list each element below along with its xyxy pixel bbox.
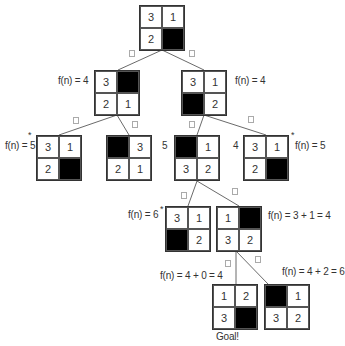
blank-tile — [162, 28, 184, 50]
blank-tile — [107, 136, 129, 158]
tile: 1 — [266, 136, 288, 158]
tile: 1 — [213, 285, 235, 307]
f-value-label: 4 — [233, 140, 238, 151]
f-value-label: f(n) = 5 — [5, 140, 35, 151]
missing-glyph-icon — [248, 116, 254, 123]
tile: 3 — [129, 136, 151, 158]
tile: 3 — [95, 71, 117, 93]
puzzle-board-l2c: 1 3 2 — [174, 135, 220, 181]
tile: 2 — [107, 158, 129, 180]
tile: 3 — [182, 71, 204, 93]
blank-tile — [235, 307, 257, 329]
tile: 1 — [197, 136, 219, 158]
f-value-label: 5 — [162, 140, 167, 151]
tile: 3 — [244, 136, 266, 158]
goal-label: Goal! — [216, 331, 239, 342]
f-value-label: f(n) = 3 + 1 = 4 — [268, 210, 331, 221]
blank-tile — [117, 71, 139, 93]
tile: 3 — [140, 6, 162, 28]
puzzle-board-l1b: 3 1 2 — [181, 70, 227, 116]
puzzle-board-l2d: 3 1 2 — [243, 135, 289, 181]
star-marker: * — [160, 204, 164, 214]
edge-l1b-l2d — [204, 115, 266, 135]
edge-root-l1b — [162, 50, 204, 70]
tile: 1 — [287, 285, 309, 307]
blank-tile — [59, 158, 81, 180]
missing-glyph-icon — [189, 50, 195, 57]
blank-tile — [175, 136, 197, 158]
blank-tile — [265, 285, 287, 307]
edge-l1b-l2c — [197, 115, 204, 135]
f-value-label: f(n) = 4 + 0 = 4 — [160, 270, 223, 281]
edge-root-l1a — [118, 50, 162, 70]
missing-glyph-icon — [189, 121, 195, 128]
edge-l1a-l2a — [59, 115, 117, 135]
tile: 1 — [117, 93, 139, 115]
puzzle-board-l1a: 3 2 1 — [94, 70, 140, 116]
puzzle-board-l4b: 1 3 2 — [264, 284, 310, 330]
tile: 1 — [129, 158, 151, 180]
f-value-label: f(n) = 4 + 2 = 6 — [282, 266, 345, 277]
edge-l1a-l2b — [117, 115, 129, 135]
puzzle-board-l3a: 3 1 2 — [165, 206, 211, 252]
tile: 3 — [217, 229, 239, 251]
missing-glyph-icon — [129, 50, 135, 57]
f-value-label: f(n) = 6 — [128, 209, 158, 220]
tile: 2 — [188, 229, 210, 251]
tile: 2 — [235, 285, 257, 307]
tile: 2 — [197, 158, 219, 180]
blank-tile — [239, 207, 261, 229]
puzzle-board-goal: 1 2 3 — [212, 284, 258, 330]
tile: 2 — [95, 93, 117, 115]
edge-l2c-l3a — [188, 181, 197, 206]
blank-tile — [266, 158, 288, 180]
missing-glyph-icon — [255, 256, 261, 263]
tile: 1 — [204, 71, 226, 93]
puzzle-board-root: 3 1 2 — [139, 5, 185, 51]
tile: 3 — [166, 207, 188, 229]
tile: 3 — [175, 158, 197, 180]
puzzle-board-l3b: 1 3 2 — [216, 206, 262, 252]
blank-tile — [166, 229, 188, 251]
tile: 2 — [287, 307, 309, 329]
tile: 2 — [239, 229, 261, 251]
blank-tile — [182, 93, 204, 115]
f-value-label: f(n) = 5 — [295, 140, 325, 151]
missing-glyph-icon — [132, 121, 138, 128]
tile: 1 — [59, 136, 81, 158]
star-marker: * — [28, 130, 32, 140]
tile: 1 — [188, 207, 210, 229]
f-value-label: f(n) = 4 — [235, 75, 265, 86]
missing-glyph-icon — [225, 260, 231, 267]
tile: 2 — [204, 93, 226, 115]
star-marker: * — [291, 130, 295, 140]
edge-l3b-l4b — [236, 251, 268, 284]
tile: 2 — [140, 28, 162, 50]
tile: 2 — [37, 158, 59, 180]
missing-glyph-icon — [181, 192, 187, 199]
puzzle-board-l2a: 3 1 2 — [36, 135, 82, 181]
missing-glyph-icon — [232, 188, 238, 195]
tile: 3 — [265, 307, 287, 329]
tile: 3 — [37, 136, 59, 158]
f-value-label: f(n) = 4 — [58, 75, 88, 86]
missing-glyph-icon — [73, 117, 79, 124]
tile: 2 — [244, 158, 266, 180]
puzzle-board-l2b: 3 2 1 — [106, 135, 152, 181]
tile: 3 — [213, 307, 235, 329]
tile: 1 — [217, 207, 239, 229]
tile: 1 — [162, 6, 184, 28]
